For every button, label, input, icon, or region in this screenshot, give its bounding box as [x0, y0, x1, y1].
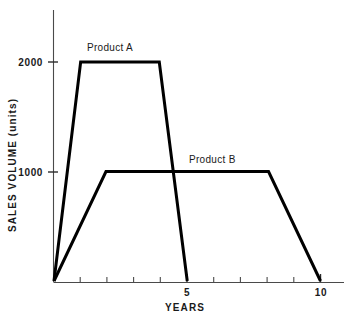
y-tick-label-1000: 1000: [18, 167, 43, 178]
x-tick-label-5: 5: [184, 287, 190, 298]
series-label-product-b: Product B: [189, 154, 236, 165]
chart-plot-area: 2000 1000 5 10 YEARS SALES VOLUME (units…: [0, 0, 352, 316]
sales-volume-chart: 2000 1000 5 10 YEARS SALES VOLUME (units…: [0, 0, 352, 316]
series-label-product-a: Product A: [87, 42, 133, 53]
x-axis-title: YEARS: [165, 302, 205, 313]
series-line-product-b: [54, 172, 321, 282]
x-tick-label-10: 10: [315, 287, 327, 298]
y-tick-label-2000: 2000: [18, 57, 43, 68]
y-axis-title: SALES VOLUME (units): [7, 98, 18, 232]
